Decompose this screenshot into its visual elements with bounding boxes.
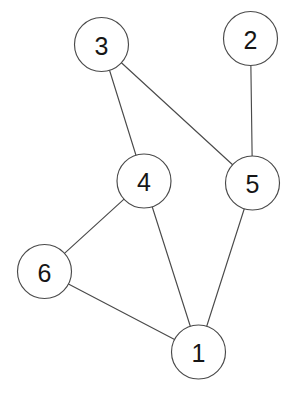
node-layer: 123456 [18, 12, 280, 380]
graph-node-label-3: 3 [95, 32, 109, 60]
graph-edge-4-1 [152, 207, 190, 327]
graph-diagram-canvas: 123456 [0, 0, 294, 393]
graph-edge-3-4 [110, 70, 136, 155]
graph-node-3[interactable]: 3 [75, 18, 129, 72]
graph-node-label-4: 4 [137, 168, 151, 196]
graph-node-label-5: 5 [246, 170, 260, 198]
graph-edge-5-1 [207, 209, 245, 327]
graph-node-6[interactable]: 6 [18, 245, 72, 299]
graph-edge-3-5 [121, 63, 232, 165]
graph-node-label-6: 6 [38, 259, 52, 287]
graph-node-label-1: 1 [192, 339, 206, 367]
graph-node-4[interactable]: 4 [117, 154, 171, 208]
graph-node-5[interactable]: 5 [226, 156, 280, 210]
graph-node-1[interactable]: 1 [172, 325, 226, 379]
graph-edge-6-1 [68, 284, 174, 339]
graph-edge-4-6 [64, 199, 124, 253]
graph-node-label-2: 2 [244, 26, 258, 54]
graph-edge-2-5 [251, 66, 252, 157]
graph-node-2[interactable]: 2 [224, 12, 278, 66]
graph-svg: 123456 [0, 0, 294, 393]
